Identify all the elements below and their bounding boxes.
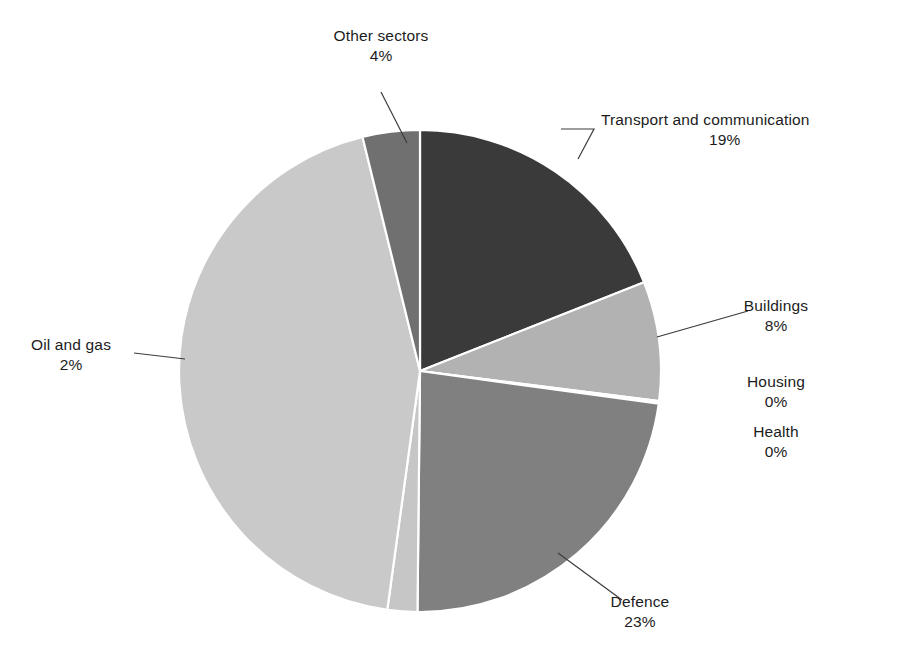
label-housing-name: Housing: [696, 372, 856, 392]
label-other-sectors: Other sectors 4%: [253, 26, 509, 66]
label-other-sectors-value: 4%: [253, 46, 509, 66]
pie-slice-group: [179, 130, 661, 612]
label-oil-and-gas-name: Oil and gas: [10, 335, 132, 355]
label-buildings-value: 8%: [696, 316, 856, 336]
pie-slice-defence[interactable]: [417, 371, 658, 612]
label-transport: Transport and communication 19%: [601, 110, 891, 150]
label-oil-and-gas: Oil and gas 2%: [10, 335, 132, 375]
leader-line-oil-and-gas: [134, 353, 185, 359]
label-defence-value: 23%: [560, 612, 720, 632]
label-oil-and-gas-value: 2%: [10, 355, 132, 375]
label-transport-name: Transport and communication: [601, 110, 891, 130]
label-health: Health 0%: [696, 422, 856, 462]
label-other-sectors-name: Other sectors: [253, 26, 509, 46]
leader-line-transport: [561, 129, 594, 159]
label-transport-value: 19%: [601, 130, 891, 150]
label-health-name: Health: [696, 422, 856, 442]
label-housing: Housing 0%: [696, 372, 856, 412]
label-health-value: 0%: [696, 442, 856, 462]
label-buildings-name: Buildings: [696, 296, 856, 316]
label-defence-name: Defence: [560, 592, 720, 612]
label-housing-value: 0%: [696, 392, 856, 412]
label-buildings: Buildings 8%: [696, 296, 856, 336]
label-defence: Defence 23%: [560, 592, 720, 632]
pie-chart: Other sectors 4% Transport and communica…: [0, 0, 898, 661]
